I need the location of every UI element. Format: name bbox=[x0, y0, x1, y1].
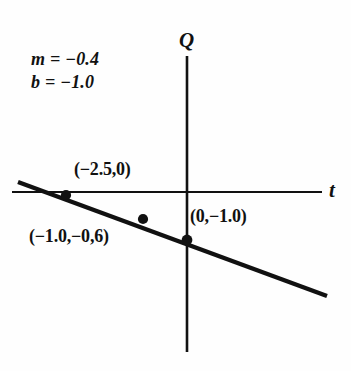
y-axis-label: Q bbox=[179, 30, 194, 51]
data-point-mid bbox=[138, 214, 148, 224]
point-label-mid: (−1.0,−0,6) bbox=[29, 227, 109, 245]
point-label-y-intercept: (0,−1.0) bbox=[190, 207, 247, 225]
point-label-x-intercept: (−2.5,0) bbox=[74, 160, 131, 178]
x-axis-label: t bbox=[329, 180, 335, 201]
intercept-parameter-annotation: b = −1.0 bbox=[31, 73, 94, 91]
data-point-x-intercept bbox=[61, 190, 71, 200]
data-point-y-intercept bbox=[182, 235, 193, 246]
slope-parameter-annotation: m = −0.4 bbox=[31, 50, 99, 68]
graph-figure: m = −0.4 b = −1.0 Q t (−2.5,0) (−1.0,−0,… bbox=[0, 0, 351, 371]
